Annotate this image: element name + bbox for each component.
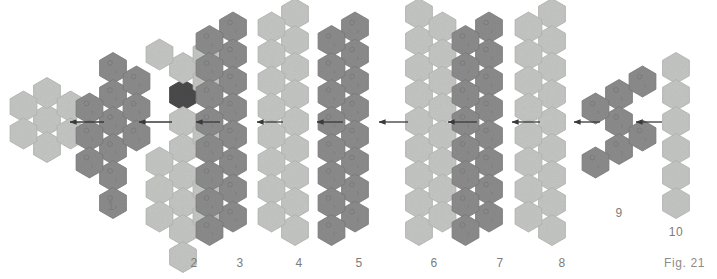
hex-cell <box>170 161 197 192</box>
hex-cell <box>406 26 433 57</box>
hex-cell <box>282 26 309 57</box>
hex-cell <box>539 188 566 219</box>
cluster-label-c2: 2 <box>190 256 197 270</box>
hexagon-cluster-layer <box>10 0 689 273</box>
hex-cell <box>539 134 566 165</box>
hex-cell <box>170 53 197 84</box>
cluster-label-c10: 10 <box>669 225 683 239</box>
hex-cell <box>146 39 173 70</box>
hex-cell <box>258 12 285 43</box>
hex-cluster-c6 <box>406 0 456 246</box>
hex-cell <box>220 39 247 70</box>
hex-cell <box>258 174 285 205</box>
hex-cell <box>342 12 369 43</box>
hex-cell <box>34 105 61 136</box>
hex-cell <box>606 134 633 165</box>
hex-cell <box>146 201 173 232</box>
hex-cell <box>515 174 542 205</box>
hex-cell <box>342 39 369 70</box>
hex-cell <box>318 53 345 84</box>
hex-cluster-c4 <box>258 0 308 246</box>
hex-cluster-c5 <box>318 12 368 246</box>
hex-cell <box>258 201 285 232</box>
hex-cell <box>220 12 247 43</box>
hex-cell <box>318 188 345 219</box>
figure-caption: Fig. 21 <box>664 256 705 270</box>
hexagon-diagram-canvas <box>0 0 717 279</box>
hex-cluster-seed <box>10 78 84 163</box>
hex-cell <box>406 80 433 111</box>
hex-cell <box>406 53 433 84</box>
hex-cell <box>123 93 150 124</box>
hex-cell <box>539 26 566 57</box>
hex-cell <box>220 174 247 205</box>
hex-cell <box>34 78 61 109</box>
hex-cell <box>582 93 609 124</box>
hex-cell <box>318 26 345 57</box>
hex-cell <box>100 53 127 84</box>
hex-cell <box>318 80 345 111</box>
hex-cell <box>170 215 197 246</box>
hex-cell <box>539 80 566 111</box>
hex-cell <box>318 161 345 192</box>
hex-cell <box>663 188 690 219</box>
hex-cell <box>663 53 690 84</box>
hex-cluster-c8 <box>515 0 565 246</box>
hex-cell <box>10 91 37 122</box>
hex-cluster-c7 <box>452 12 502 246</box>
hex-cell <box>515 12 542 43</box>
hex-cell <box>10 118 37 149</box>
figure-container: 12345678910 Fig. 21 <box>0 0 717 279</box>
hex-cell <box>629 66 656 97</box>
hex-cell <box>342 201 369 232</box>
cluster-label-c7: 7 <box>496 256 503 270</box>
cluster-label-c4: 4 <box>295 256 302 270</box>
hex-cluster-c3 <box>196 12 246 246</box>
hex-cell <box>342 93 369 124</box>
hex-cluster-c1 <box>76 53 150 219</box>
hex-cell <box>629 120 656 151</box>
hex-cell <box>663 134 690 165</box>
hex-cell <box>476 93 503 124</box>
hex-cell <box>146 147 173 178</box>
hex-cell <box>318 134 345 165</box>
hex-cell <box>123 120 150 151</box>
hex-cell <box>258 93 285 124</box>
hex-cell <box>282 134 309 165</box>
hex-cell <box>515 66 542 97</box>
hex-cell <box>476 12 503 43</box>
hex-cell <box>515 39 542 70</box>
hex-cell <box>342 174 369 205</box>
cluster-label-c3: 3 <box>236 256 243 270</box>
hex-cell <box>170 188 197 219</box>
hex-cell <box>220 93 247 124</box>
hex-cell <box>476 39 503 70</box>
hex-cell <box>663 161 690 192</box>
hex-cell <box>258 147 285 178</box>
hex-cell <box>476 147 503 178</box>
hex-cell <box>123 66 150 97</box>
hex-cell <box>282 80 309 111</box>
hex-cell <box>220 147 247 178</box>
hex-cell <box>100 134 127 165</box>
hex-cell <box>539 107 566 138</box>
hex-cell <box>220 120 247 151</box>
hex-cell <box>220 201 247 232</box>
hex-cell <box>606 80 633 111</box>
hex-cell <box>582 147 609 178</box>
hex-cell <box>476 120 503 151</box>
cluster-label-c6: 6 <box>430 256 437 270</box>
cluster-label-c1: 1 <box>107 199 114 213</box>
cluster-label-c8: 8 <box>558 256 565 270</box>
hex-cell <box>220 66 247 97</box>
hex-cell <box>342 66 369 97</box>
hex-cell <box>515 93 542 124</box>
hex-cell <box>406 188 433 219</box>
hex-cell <box>606 107 633 138</box>
hex-cell <box>170 107 197 138</box>
hex-cell <box>282 107 309 138</box>
hex-cell <box>76 147 103 178</box>
hex-cell <box>342 147 369 178</box>
hex-cell <box>663 107 690 138</box>
hex-cell <box>100 161 127 192</box>
